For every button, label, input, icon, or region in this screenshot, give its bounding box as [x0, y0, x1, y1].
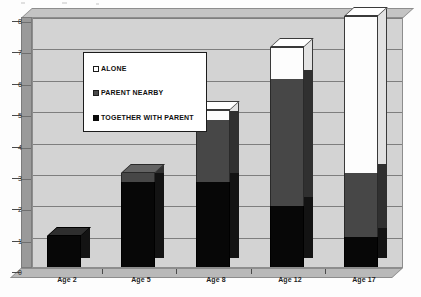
y-axis-label: 2: [8, 206, 22, 213]
bar-segment-together: [196, 182, 230, 267]
scan-artifact: [21, 2, 25, 4]
wall-notch: [22, 148, 31, 149]
wall-notch: [22, 85, 31, 86]
wall-notch: [22, 22, 31, 23]
bar-segment-side: [378, 228, 387, 258]
wall-notch: [22, 53, 31, 54]
legend-item-together-with-parent: TOGETHER WITH PARENT: [93, 114, 194, 121]
y-axis-label: 7: [8, 49, 22, 56]
y-axis-label: 0: [8, 269, 22, 276]
wall-notch: [22, 210, 31, 211]
bar-segment-nearby: [121, 173, 155, 182]
bar-segment-side: [155, 173, 164, 258]
bar-segment-nearby: [344, 173, 378, 237]
chart-page: ALONE PARENT NEARBY TOGETHER WITH PARENT…: [0, 0, 421, 297]
legend-label: PARENT NEARBY: [101, 89, 163, 96]
bar-segment-together: [270, 206, 304, 267]
bar-segment-side: [230, 111, 239, 174]
legend-item-parent-nearby: PARENT NEARBY: [93, 89, 163, 96]
bar-segment-alone: [344, 16, 378, 173]
x-axis-tick: [325, 269, 326, 274]
chart-wall-left: [21, 17, 32, 268]
bar-segment-together: [121, 182, 155, 267]
x-axis-tick: [251, 269, 252, 274]
bar-segment-side: [304, 70, 313, 197]
parent-nearby-swatch-icon: [93, 90, 99, 96]
x-axis-label: Age 8: [181, 276, 251, 283]
together-with-parent-swatch-icon: [93, 115, 99, 121]
x-axis-tick: [102, 269, 103, 274]
bar-segment-together: [47, 236, 81, 267]
bar-segment-side: [378, 164, 387, 228]
x-axis-label: Age 17: [329, 276, 399, 283]
y-axis-label: 4: [8, 143, 22, 150]
bar-segment-together: [344, 237, 378, 267]
bar-segment-side: [230, 173, 239, 258]
wall-notch: [22, 242, 31, 243]
x-axis-label: Age 5: [106, 276, 176, 283]
bar-segment-side: [378, 7, 387, 164]
bar-column: [270, 16, 304, 267]
chart-legend: ALONE PARENT NEARBY TOGETHER WITH PARENT: [83, 52, 207, 132]
legend-label: ALONE: [101, 65, 127, 72]
legend-item-alone: ALONE: [93, 65, 127, 72]
y-axis-label: 8: [8, 18, 22, 25]
x-axis-label: Age 12: [255, 276, 325, 283]
y-axis-label: 3: [8, 174, 22, 181]
alone-swatch-icon: [93, 66, 99, 72]
legend-label: TOGETHER WITH PARENT: [101, 114, 194, 121]
plot-area: ALONE PARENT NEARBY TOGETHER WITH PARENT: [32, 17, 403, 268]
x-axis-tick: [176, 269, 177, 274]
bar-segment-alone: [270, 47, 304, 78]
bar-segment-side: [304, 197, 313, 258]
y-axis-label: 1: [8, 237, 22, 244]
y-axis-label: 6: [8, 80, 22, 87]
scan-artifact: [96, 3, 99, 5]
scan-artifact: [62, 2, 67, 4]
bar-column: [344, 16, 378, 267]
y-axis-label: 5: [8, 112, 22, 119]
x-axis-label: Age 2: [32, 276, 102, 283]
bar-segment-nearby: [270, 79, 304, 206]
bar-column: [47, 16, 81, 267]
wall-notch: [22, 116, 31, 117]
wall-notch: [22, 179, 31, 180]
